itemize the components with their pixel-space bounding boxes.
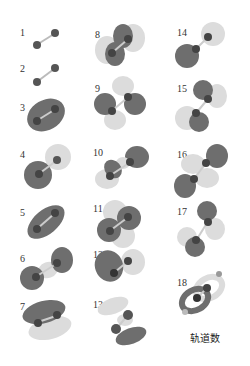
orbital-6: 6 — [0, 248, 70, 296]
orbital-14: 14 — [165, 22, 235, 70]
four-lobe-axial-orbital-icon — [93, 145, 145, 193]
orbital-18: 18 — [165, 270, 235, 318]
orbital-12: 12 — [85, 248, 155, 296]
two-lobe-orbital-icon — [18, 248, 70, 296]
sigma-peanut-orbital-icon — [18, 200, 70, 248]
figure-caption: 轨道数 — [190, 330, 220, 345]
four-lobe-orbital-icon — [175, 148, 227, 196]
ring-orbital-icon — [175, 270, 227, 318]
two-lobe-orbital-icon — [93, 248, 145, 296]
orbital-9: 9 — [85, 78, 155, 126]
orbital-17: 17 — [165, 205, 235, 253]
orbital-15: 15 — [165, 82, 235, 130]
pi-orbital-icon — [18, 298, 70, 346]
four-lobe-orbital-icon — [93, 78, 145, 126]
sigma-orbital-icon — [18, 95, 70, 143]
orbital-13: 13 — [85, 298, 155, 346]
two-lobe-orbital-icon — [175, 22, 227, 70]
orbital-16: 16 — [165, 148, 235, 196]
orbital-10: 10 — [85, 145, 155, 193]
orbital-3: 3 — [0, 95, 70, 143]
four-lobe-orbital-icon — [175, 205, 227, 253]
orbital-7: 7 — [0, 298, 70, 346]
four-lobe-orbital-icon — [93, 198, 145, 246]
four-lobe-orbital-icon — [175, 82, 227, 130]
orbital-8: 8 — [85, 22, 155, 70]
orbital-4: 4 — [0, 145, 70, 193]
two-lobe-orbital-icon — [18, 145, 70, 193]
pi-orbital-icon — [93, 298, 145, 346]
orbital-11: 11 — [85, 198, 155, 246]
four-lobe-orbital-icon — [93, 22, 145, 70]
orbital-5: 5 — [0, 200, 70, 248]
